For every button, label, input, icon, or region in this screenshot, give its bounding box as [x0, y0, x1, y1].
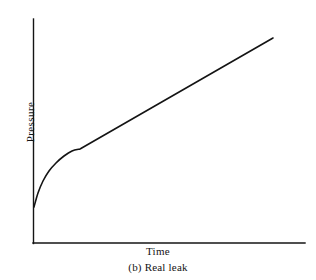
chart-background: [0, 0, 316, 280]
x-axis-label: Time: [0, 245, 316, 257]
figure-caption: (b) Real leak: [0, 261, 316, 273]
figure-container: Pressure Time (b) Real leak: [0, 0, 316, 280]
pressure-vs-time-chart: [0, 0, 316, 280]
